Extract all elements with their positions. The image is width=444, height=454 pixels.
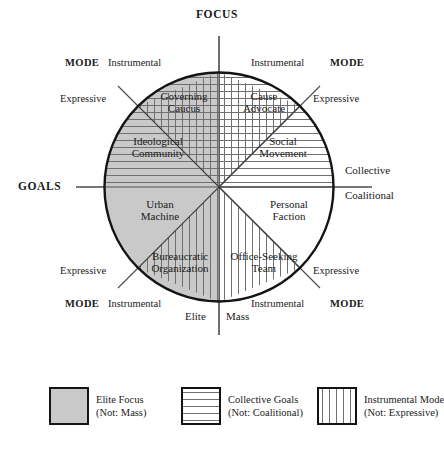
mode-expressive-top-right: Expressive	[313, 93, 359, 105]
sector-line-2: Movement	[246, 147, 320, 159]
sector-line-2: Team	[220, 262, 308, 274]
sector-line-2: Caucus	[147, 102, 221, 114]
sector-line-1: Ideological	[118, 135, 198, 147]
sector-line-1: Urban	[122, 198, 198, 210]
sector-line-1: Office-Seeking	[220, 250, 308, 262]
legend-line-1: Instrumental Mode	[364, 393, 444, 406]
mode-title-top-left: MODE	[65, 57, 99, 69]
legend-item-collective-goals: Collective Goals (Not: Coalitional)	[228, 393, 303, 419]
sector-line-2: Organization	[138, 262, 222, 274]
goals-pole-collective: Collective	[345, 164, 390, 176]
focus-pole-elite: Elite	[185, 310, 206, 322]
sector-label-personal-faction: Personal Faction	[252, 198, 326, 223]
legend-line-2: (Not: Coalitional)	[228, 406, 303, 419]
mode-title-top-right: MODE	[330, 57, 364, 69]
sector-label-social-movement: Social Movement	[246, 135, 320, 160]
mode-expressive-bottom-left: Expressive	[60, 265, 106, 277]
mode-title-bottom-left: MODE	[65, 298, 99, 310]
legend-line-1: Elite Focus	[96, 393, 146, 406]
mode-expressive-bottom-right: Expressive	[313, 265, 359, 277]
mode-title-bottom-right: MODE	[330, 298, 364, 310]
sector-line-2: Community	[118, 147, 198, 159]
legend-swatch-elite-focus	[50, 388, 88, 424]
mode-expressive-top-left: Expressive	[60, 93, 106, 105]
mode-instrumental-top-left: Instrumental	[108, 57, 161, 69]
sector-line-1: Social	[246, 135, 320, 147]
sector-line-2: Faction	[252, 210, 326, 222]
sector-label-ideological-community: Ideological Community	[118, 135, 198, 160]
mode-instrumental-top-right: Instrumental	[251, 57, 304, 69]
legend-swatch-collective-goals	[182, 388, 220, 424]
sector-label-urban-machine: Urban Machine	[122, 198, 198, 223]
sector-label-governing-caucus: Governing Caucus	[147, 90, 221, 115]
sector-label-cause-advocate: Cause Advocate	[227, 90, 301, 115]
focus-pole-mass: Mass	[226, 310, 249, 322]
legend-item-elite-focus: Elite Focus (Not: Mass)	[96, 393, 146, 419]
sector-label-bureaucratic-organization: Bureaucratic Organization	[138, 250, 222, 275]
sector-line-1: Governing	[147, 90, 221, 102]
legend-line-2: (Not: Mass)	[96, 406, 146, 419]
focus-axis-title: FOCUS	[196, 8, 238, 21]
sector-line-2: Machine	[122, 210, 198, 222]
sector-line-1: Bureaucratic	[138, 250, 222, 262]
legend-line-2: (Not: Expressive)	[364, 406, 444, 419]
sector-line-1: Personal	[252, 198, 326, 210]
mode-instrumental-bottom-left: Instrumental	[108, 298, 161, 310]
mode-instrumental-bottom-right: Instrumental	[251, 298, 304, 310]
goals-pole-coalitional: Coalitional	[345, 189, 394, 201]
legend-line-1: Collective Goals	[228, 393, 303, 406]
sector-line-2: Advocate	[227, 102, 301, 114]
legend-swatch-instrumental-mode	[318, 388, 356, 424]
legend-item-instrumental-mode: Instrumental Mode (Not: Expressive)	[364, 393, 444, 419]
sector-line-1: Cause	[227, 90, 301, 102]
goals-axis-title: GOALS	[18, 180, 61, 193]
sector-label-office-seeking-team: Office-Seeking Team	[220, 250, 308, 275]
